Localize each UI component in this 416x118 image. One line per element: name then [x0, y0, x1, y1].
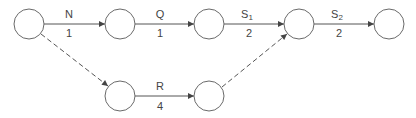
activity-label-s1: S1: [241, 8, 253, 22]
node-5: [374, 9, 404, 39]
activity-label-r: R: [156, 80, 164, 92]
duration-label-n: 1: [66, 27, 72, 39]
dummy-edge-1: [41, 34, 108, 86]
node-2: [105, 9, 135, 39]
node-7: [194, 81, 224, 111]
activity-label-s2: S2: [331, 8, 343, 22]
node-3: [194, 9, 224, 39]
network-diagram: N 1 Q 1 S1 2 S2 2 R 4: [0, 0, 416, 118]
activity-label-q: Q: [156, 8, 165, 20]
node-6: [105, 81, 135, 111]
node-1: [14, 9, 44, 39]
duration-label-s2: 2: [336, 27, 342, 39]
duration-label-q: 1: [157, 27, 163, 39]
node-4: [284, 9, 314, 39]
duration-label-s1: 2: [246, 27, 252, 39]
activity-label-n: N: [65, 8, 73, 20]
dummy-edge-2: [222, 34, 287, 87]
duration-label-r: 4: [157, 100, 163, 112]
